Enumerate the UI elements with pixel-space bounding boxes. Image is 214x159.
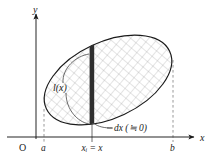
- integration-area-diagram: y x O a xᵢ = x b l(x) dx (≒ 0): [0, 0, 214, 159]
- integration-region: [30, 17, 185, 143]
- origin-label: O: [19, 142, 26, 153]
- tick-label-b: b: [170, 143, 175, 153]
- dx-label: dx (≒ 0): [114, 123, 147, 134]
- figure-canvas: y x O a xᵢ = x b l(x) dx (≒ 0): [0, 0, 214, 159]
- tick-label-xi: xᵢ = x: [80, 143, 103, 153]
- tick-label-a: a: [41, 143, 46, 153]
- x-axis-label: x: [199, 132, 205, 143]
- region-fill: [30, 17, 185, 143]
- length-label: l(x): [53, 82, 68, 94]
- y-axis-label: y: [32, 4, 38, 15]
